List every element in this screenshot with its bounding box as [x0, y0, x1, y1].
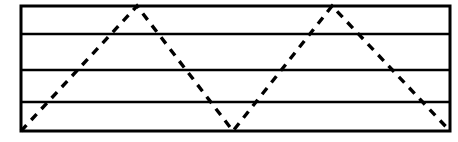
line-diagram: Dashed zigzag path over a ruled rectangl…: [0, 0, 458, 142]
figure-container: Dashed zigzag path over a ruled rectangl…: [0, 0, 458, 142]
